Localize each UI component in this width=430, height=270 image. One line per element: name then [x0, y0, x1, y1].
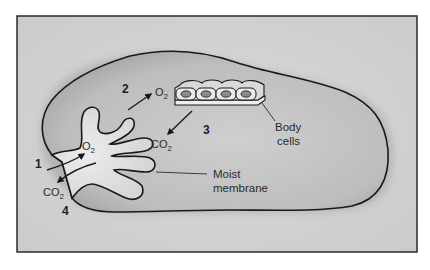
label-membrane-line2: membrane [213, 182, 268, 194]
label-membrane-line1: Moist [213, 168, 241, 180]
step-number-2: 2 [122, 82, 129, 96]
label-body-cells-line2: cells [277, 135, 300, 147]
cell-nucleus [181, 91, 191, 97]
cell-nucleus [241, 91, 251, 97]
gas-exchange-diagram: 1 2 3 4 O2 O2 CO2 CO2 Body cells Moist m… [0, 0, 430, 270]
step-number-3: 3 [203, 123, 210, 137]
step-number-4: 4 [62, 204, 69, 218]
step-number-1: 1 [35, 157, 42, 171]
label-body-cells-line1: Body [275, 121, 301, 133]
body-cells-block [175, 80, 265, 105]
cell-nucleus [201, 91, 211, 97]
cell-nucleus [221, 91, 231, 97]
